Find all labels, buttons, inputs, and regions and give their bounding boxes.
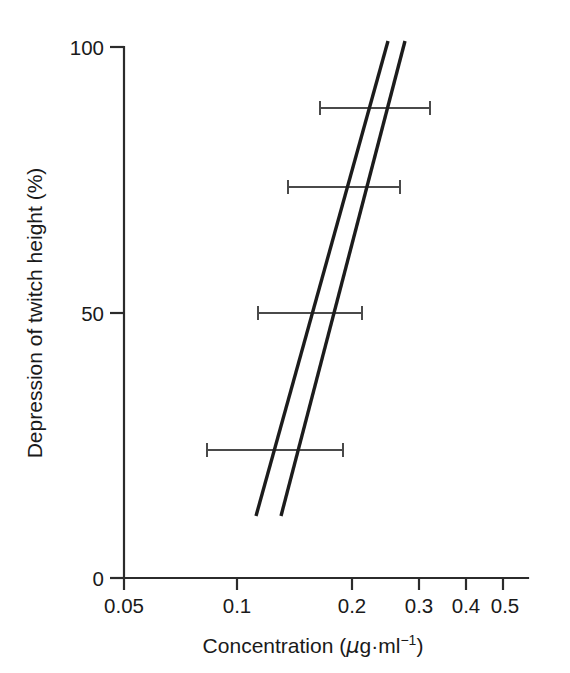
- x-axis-title-tail: ): [416, 634, 423, 657]
- x-tick-labels: 0.05 0.1 0.2 0.3 0.4 0.5: [104, 594, 519, 617]
- x-axis-title-mid: g·ml: [360, 634, 401, 657]
- left-regression-line: [256, 41, 388, 516]
- error-bars-group: [207, 101, 430, 457]
- x-tick-label-0.4: 0.4: [452, 594, 481, 617]
- x-axis-title-lead: Concentration (: [203, 634, 347, 657]
- x-axis-title-mu: μ: [345, 634, 359, 658]
- x-tick-label-0.1: 0.1: [223, 594, 252, 617]
- regression-lines-group: [256, 41, 405, 516]
- error-bar-75: [288, 180, 400, 194]
- y-tick-label-100: 100: [70, 36, 104, 59]
- svg-text:Concentration (μg·ml−1): Concentration (μg·ml−1): [203, 632, 424, 658]
- y-tick-label-50: 50: [81, 302, 104, 325]
- x-tick-label-0.2: 0.2: [338, 594, 367, 617]
- x-tick-label-0.3: 0.3: [405, 594, 434, 617]
- x-tick-marks: [124, 578, 503, 590]
- y-tick-labels: 100 50 0: [70, 36, 104, 590]
- figure-page: 100 50 0 0.05 0.1 0.2 0.3 0.4 0.5: [0, 0, 570, 673]
- error-bar-90: [320, 101, 430, 115]
- y-tick-label-0: 0: [93, 567, 104, 590]
- y-axis-title: Depression of twitch height (%): [23, 168, 46, 459]
- x-axis-title-sup: −1: [400, 632, 416, 648]
- x-tick-label-0.5: 0.5: [491, 594, 520, 617]
- y-tick-marks: [110, 47, 124, 578]
- x-tick-label-0.05: 0.05: [104, 594, 144, 617]
- dose-response-chart: 100 50 0 0.05 0.1 0.2 0.3 0.4 0.5: [0, 0, 570, 673]
- x-axis-title: Concentration (μg·ml−1): [203, 632, 424, 658]
